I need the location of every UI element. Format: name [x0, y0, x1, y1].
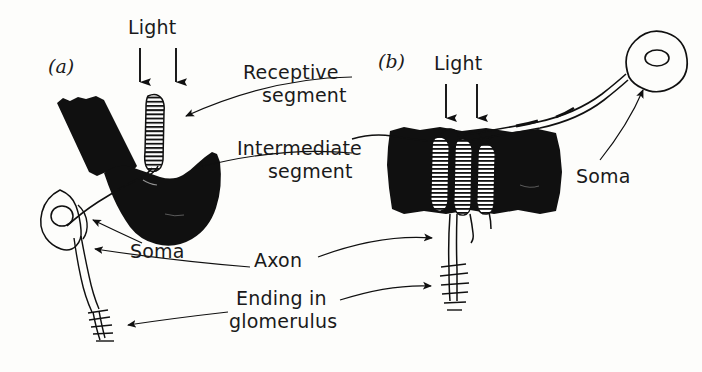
axon-b-proximal	[470, 74, 628, 140]
receptive-segment-b-2	[454, 139, 473, 215]
soma-a	[41, 190, 87, 250]
receptive-segment-b-1	[431, 137, 450, 211]
figure-canvas: (a) (b) Light Light Receptive segment In…	[0, 0, 702, 372]
panel-label-a: (a)	[48, 55, 74, 77]
axon-leader-b	[318, 237, 432, 257]
axon-a	[74, 236, 99, 312]
glomerulus-label-line2: glomerulus	[229, 310, 337, 332]
glomerulus-label-line1: Ending in	[236, 287, 327, 309]
axon-b-distal	[449, 212, 491, 301]
light-arrows-a	[140, 48, 176, 82]
glomerulus-ending-a	[88, 310, 114, 341]
glomerulus-leader-b	[340, 286, 431, 300]
panel-label-b: (b)	[378, 50, 405, 72]
soma-b	[626, 31, 687, 92]
soma-leader-b	[600, 90, 643, 160]
receptive-segment-b-3	[477, 144, 496, 214]
soma-label-b: Soma	[576, 165, 631, 187]
intermediate-segment-label-line2: segment	[268, 160, 353, 182]
glomerulus-leader-a	[128, 312, 228, 325]
light-arrows-b	[446, 84, 477, 118]
receptive-segment-a	[145, 95, 165, 172]
light-label-b: Light	[434, 52, 482, 74]
axon-label: Axon	[254, 249, 302, 271]
receptive-segment-label-line1: Receptive	[243, 61, 339, 83]
glomerulus-ending-b	[440, 264, 469, 310]
light-label-a: Light	[128, 16, 176, 38]
pigment-mass-a-upper	[57, 96, 137, 176]
receptive-segment-label-line2: segment	[262, 84, 347, 106]
intermediate-segment-label-line1: Intermediate	[237, 137, 362, 159]
soma-label-a: Soma	[130, 240, 185, 262]
